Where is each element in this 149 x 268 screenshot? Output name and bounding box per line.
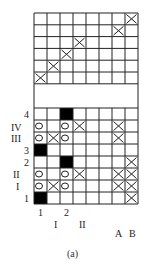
circle-mark-icon xyxy=(36,183,43,189)
x-mark-icon xyxy=(127,194,137,203)
circle-mark-icon xyxy=(36,171,43,177)
col-label-a: A xyxy=(115,229,122,239)
figure: 4IVIII32III1 1 2 I II A B (a) xyxy=(0,0,149,268)
x-mark-icon xyxy=(114,134,124,143)
row-label: IV xyxy=(11,123,22,133)
row-label: 1 xyxy=(24,194,29,204)
circle-mark-icon xyxy=(62,171,69,177)
circle-mark-icon xyxy=(36,123,43,129)
x-mark-icon xyxy=(49,182,59,191)
row-label: I xyxy=(16,182,19,192)
row-label: 2 xyxy=(24,158,29,168)
col-label-b: B xyxy=(129,229,136,239)
figure-caption: (a) xyxy=(67,248,78,259)
x-mark-icon xyxy=(36,74,46,83)
x-mark-icon xyxy=(75,122,85,131)
x-mark-icon xyxy=(127,182,137,191)
x-mark-icon xyxy=(62,50,72,59)
group-label-roman-2: II xyxy=(79,220,86,230)
x-mark-icon xyxy=(114,26,124,35)
row-label: II xyxy=(13,170,20,180)
row-label: 3 xyxy=(24,146,29,156)
black-cell xyxy=(60,156,73,168)
circle-mark-icon xyxy=(62,183,69,189)
circle-mark-icon xyxy=(36,135,43,141)
x-mark-icon xyxy=(114,170,124,179)
circle-mark-icon xyxy=(62,135,69,141)
group-label-roman-1: I xyxy=(54,220,57,230)
col-label-1: 1 xyxy=(38,208,43,218)
x-mark-icon xyxy=(75,38,85,47)
row-label: 4 xyxy=(24,110,29,120)
row-label: III xyxy=(11,134,21,144)
grid-diagram xyxy=(0,0,149,268)
x-mark-icon xyxy=(49,62,59,71)
x-mark-icon xyxy=(127,15,137,24)
col-label-2: 2 xyxy=(64,208,69,218)
x-mark-icon xyxy=(49,134,59,143)
black-cell xyxy=(34,192,47,204)
black-cell xyxy=(60,108,73,120)
circle-mark-icon xyxy=(62,123,69,129)
x-mark-icon xyxy=(75,170,85,179)
x-mark-icon xyxy=(127,158,137,167)
black-cell xyxy=(34,144,47,156)
x-mark-icon xyxy=(114,122,124,131)
x-mark-icon xyxy=(114,182,124,191)
x-mark-icon xyxy=(127,170,137,179)
